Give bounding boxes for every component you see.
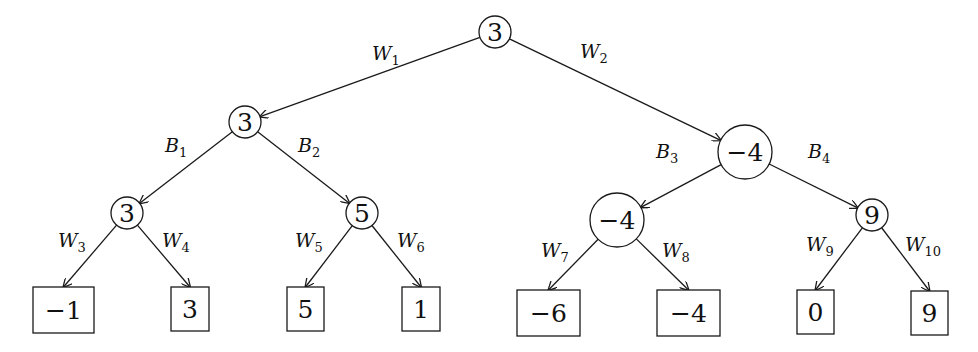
edge-label-w4: W4 xyxy=(162,229,190,255)
tree-node-n2: −4 xyxy=(718,125,772,179)
node-value: 3 xyxy=(237,108,253,137)
edge-label-b2: B2 xyxy=(297,134,320,160)
edge-label-w10: W10 xyxy=(905,233,941,259)
edge-label-w7: W7 xyxy=(541,239,569,265)
edge-n1-n3 xyxy=(140,132,233,203)
tree-node-n5: −4 xyxy=(590,193,644,247)
leaf-node-l3: 5 xyxy=(287,287,324,331)
node-value: −4 xyxy=(727,138,764,167)
leaf-value: 1 xyxy=(413,295,429,324)
edge-label-w3: W3 xyxy=(58,229,86,255)
leaf-value: 9 xyxy=(922,299,938,328)
leaf-node-l8: 9 xyxy=(911,291,948,335)
edge-label-b1: B1 xyxy=(164,134,187,160)
leaf-value: 3 xyxy=(182,295,198,324)
edges-layer xyxy=(64,37,930,291)
node-value: 3 xyxy=(119,199,135,228)
edge-label-w9: W9 xyxy=(806,233,834,259)
edge-label-w2: W2 xyxy=(580,40,608,66)
leaf-node-l1: −1 xyxy=(33,287,94,333)
edge-n2-n5 xyxy=(641,165,721,208)
edge-label-b3: B3 xyxy=(655,140,678,166)
leaf-node-l7: 0 xyxy=(797,290,834,334)
edge-n2-n6 xyxy=(769,164,857,208)
tree-node-n6: 9 xyxy=(856,199,888,231)
node-value: 9 xyxy=(864,201,880,230)
game-tree-diagram: 33−435−49 −1351−6−409 W1W2B1B2B3B4W3W4W5… xyxy=(0,0,978,352)
leaf-node-l6: −4 xyxy=(657,290,720,336)
edge-label-w1: W1 xyxy=(372,42,400,68)
leaf-node-l4: 1 xyxy=(402,287,440,331)
node-value: 3 xyxy=(487,18,503,47)
leaf-value: −6 xyxy=(530,299,567,328)
leaf-value: 0 xyxy=(808,298,824,327)
leaf-value: 5 xyxy=(298,295,314,324)
edge-label-w5: W5 xyxy=(295,229,323,255)
tree-node-n3: 3 xyxy=(111,197,143,229)
edge-root-n2 xyxy=(509,39,720,140)
leaf-node-l5: −6 xyxy=(517,290,580,336)
edge-label-w8: W8 xyxy=(662,239,690,265)
tree-node-n1: 3 xyxy=(229,106,261,138)
node-value: 5 xyxy=(354,199,370,228)
tree-node-root: 3 xyxy=(479,16,511,48)
edge-root-n1 xyxy=(260,37,480,116)
nodes-layer: 33−435−49 xyxy=(111,16,888,247)
node-value: −4 xyxy=(599,206,636,235)
edge-label-b4: B4 xyxy=(807,140,830,166)
leaf-node-l2: 3 xyxy=(171,287,209,331)
leaves-layer: −1351−6−409 xyxy=(33,287,948,336)
tree-node-n4: 5 xyxy=(346,197,378,229)
edge-labels-layer: W1W2B1B2B3B4W3W4W5W6W7W8W9W10 xyxy=(58,40,941,265)
leaf-value: −1 xyxy=(45,296,82,325)
edge-label-w6: W6 xyxy=(397,229,425,255)
leaf-value: −4 xyxy=(670,299,707,328)
